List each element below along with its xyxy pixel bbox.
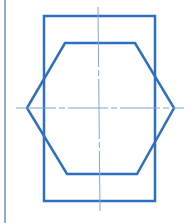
vertical-centerline (98, 7, 100, 211)
hexagon-projection-drawing (0, 0, 194, 223)
